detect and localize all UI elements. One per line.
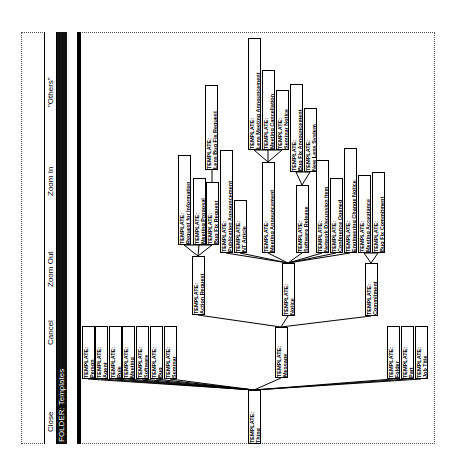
tree-node-person[interactable]: TEMPLATE:Person <box>82 326 95 379</box>
tree-node-action-request[interactable]: TEMPLATE:Action Request <box>192 256 205 315</box>
node-label: Network Discussion Item <box>323 187 329 252</box>
tree-node-bug-fix-request[interactable]: TEMPLATE:Bug Fix Request <box>206 182 219 245</box>
node-label: Bug Fix Request <box>213 201 219 244</box>
node-label: Conference Opened <box>337 200 343 252</box>
tree-node-meeting-announcement[interactable]: TEMPLATE:Meeting Announcement <box>262 162 275 253</box>
node-label: Job Title <box>422 347 428 378</box>
content-divider <box>78 32 81 444</box>
tree-node-conference-opened[interactable]: TEMPLATE:Conference Opened <box>330 178 343 253</box>
node-label: Notice <box>289 284 295 315</box>
tree-node-seminar[interactable]: TEMPLATE:Seminar <box>164 326 177 379</box>
tree-node-software[interactable]: TEMPLATE:Software <box>136 326 149 379</box>
tree-node-bug-fix-announcement[interactable]: TEMPLATE:Bug Fix Announcement <box>290 84 303 172</box>
tree-node-message[interactable]: TEMPLATE:Message <box>275 327 288 378</box>
node-label: NT Article <box>241 221 247 252</box>
tree-node-folder[interactable]: TEMPLATE:Folder <box>387 326 400 379</box>
tree-node-meeting-cancellation[interactable]: TEMPLATE:Meeting Cancellation <box>262 70 275 150</box>
menu-cancel[interactable]: Cancel <box>46 320 56 345</box>
node-label: Agent <box>102 347 108 378</box>
node-label: Engineering Change Notice <box>351 180 357 252</box>
window-title: FOLDER: Templates <box>57 369 67 442</box>
tree-node-meeting-proposal[interactable]: TEMPLATE:Meeting Proposal <box>193 178 206 245</box>
node-label: Lens Meeting Announcement <box>255 73 261 150</box>
menu-others[interactable]: "Others" <box>46 77 56 107</box>
menu-zoom-in[interactable]: Zoom In <box>46 167 56 196</box>
tree-node-engineering-change-notice[interactable]: TEMPLATE:Engineering Change Notice <box>344 148 357 253</box>
node-label: Request for Information <box>185 182 191 244</box>
tree-node-part[interactable]: TEMPLATE:Part <box>401 326 414 379</box>
menu-close[interactable]: Close <box>46 412 56 432</box>
node-label: Message <box>282 346 288 377</box>
menu-bar: Close Cancel Zoom Out Zoom In "Others" <box>44 32 57 444</box>
tree-node-notice[interactable]: TEMPLATE:Notice <box>282 263 295 316</box>
tree-node-meeting[interactable]: TEMPLATE:Meeting <box>122 326 135 379</box>
node-label: Part <box>408 347 414 378</box>
node-label: Seminar <box>171 347 177 378</box>
node-label: Meeting Acceptance <box>365 199 371 252</box>
tree-node-commitment[interactable]: TEMPLATE:Commitment <box>365 263 378 316</box>
node-label: Lens Bug Fix Request <box>212 111 218 169</box>
node-label: Bug <box>157 347 163 378</box>
tree-node-request-for-information[interactable]: TEMPLATE:Request for Information <box>178 155 191 245</box>
node-label: Bug Fix Commitment <box>379 197 385 252</box>
tree-node-software-release[interactable]: TEMPLATE:Software Release <box>296 185 309 253</box>
tree-node-seminar-notice[interactable]: TEMPLATE:Seminar Notice <box>276 90 289 150</box>
node-label: Commitment <box>372 281 378 315</box>
tree-node-nt-article[interactable]: TEMPLATE:NT Article <box>234 200 247 253</box>
tree-node-thing[interactable]: TEMPLATE:Thing <box>248 390 261 444</box>
tree-node-bug-fix-commitment[interactable]: TEMPLATE:Bug Fix Commitment <box>372 172 385 253</box>
tree-node-lens-bug-fix-request[interactable]: TEMPLATE:Lens Bug Fix Request <box>205 85 218 170</box>
tree-node-lens-meeting-announcement[interactable]: TEMPLATE:Lens Meeting Announcement <box>248 38 261 150</box>
title-bar: FOLDER: Templates <box>57 32 67 444</box>
node-label: Bug Fix Announcement <box>297 109 303 171</box>
tree-node-bug[interactable]: TEMPLATE:Bug <box>150 326 163 379</box>
node-label: Folder <box>394 347 400 378</box>
tree-node-job-title[interactable]: TEMPLATE:Job Title <box>415 326 428 379</box>
node-label: Seminar Notice <box>283 109 289 149</box>
node-label: Software <box>143 347 149 378</box>
tree-node-network-discussion-item[interactable]: TEMPLATE:Network Discussion Item <box>316 160 329 253</box>
node-label: Thing <box>255 412 261 443</box>
title-spacer <box>67 32 78 444</box>
node-label: Software Release <box>303 206 309 252</box>
tree-node-publication-announcement[interactable]: TEMPLATE:Publication Announcement <box>220 150 233 253</box>
tree-node-agent[interactable]: TEMPLATE:Agent <box>95 326 108 379</box>
tree-node-meeting-acceptance[interactable]: TEMPLATE:Meeting Acceptance <box>358 175 371 253</box>
tree-node-rule[interactable]: TEMPLATE:Rule <box>109 326 122 379</box>
node-label: Publication Announcement <box>227 181 233 252</box>
node-label: Action Request <box>199 274 205 314</box>
menu-zoom-out[interactable]: Zoom Out <box>46 251 56 287</box>
node-label: Meeting Announcement <box>269 190 275 252</box>
node-label: Meeting <box>129 347 135 378</box>
node-label: Meeting Cancellation <box>269 94 275 149</box>
